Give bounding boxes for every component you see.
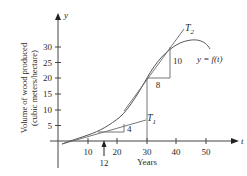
x-tick-label: 20 xyxy=(113,147,123,157)
x-axis-label: Years xyxy=(137,157,158,167)
arrow-12-label: 12 xyxy=(100,158,109,168)
T2-rise-label: 10 xyxy=(173,56,183,66)
x-tick-label: 10 xyxy=(84,147,94,157)
T2-label: T2 xyxy=(185,22,195,36)
T1-rise-label: 4 xyxy=(127,124,132,134)
y-tick-label: 20 xyxy=(43,73,53,83)
y-tick-label: 15 xyxy=(43,89,53,99)
tangent-T2 xyxy=(124,29,184,111)
x-tick-label: 30 xyxy=(143,147,153,157)
y-axis-label-line2: (cubic meters/hectare) xyxy=(29,50,39,126)
y-axis-arrow-icon xyxy=(55,13,61,20)
x-tick-label: 50 xyxy=(202,147,212,157)
x-axis-arrow-icon xyxy=(231,138,239,144)
x-tick-label: 40 xyxy=(172,147,182,157)
t-axis-symbol: t xyxy=(241,136,244,146)
curve-f xyxy=(62,40,210,144)
y-tick-label: 30 xyxy=(43,42,53,52)
T1-slope-triangle xyxy=(98,124,124,132)
T2-run-label: 8 xyxy=(156,80,161,90)
y-tick-label: 5 xyxy=(48,121,53,131)
T1-label: T1 xyxy=(147,112,156,126)
y-axis-label: Volume of wood produced (cubic meters/he… xyxy=(19,42,39,133)
y-axis-label-line1: Volume of wood produced xyxy=(19,42,29,133)
T2-slope-triangle xyxy=(147,47,170,78)
chart-canvas: 30 25 20 15 10 5 10 20 30 40 50 y t Year… xyxy=(0,0,247,176)
y-tick-label: 25 xyxy=(43,58,53,68)
y-tick-label: 10 xyxy=(43,105,53,115)
curve-label: y = f(t) xyxy=(196,54,223,64)
y-axis-symbol: y xyxy=(63,10,68,20)
